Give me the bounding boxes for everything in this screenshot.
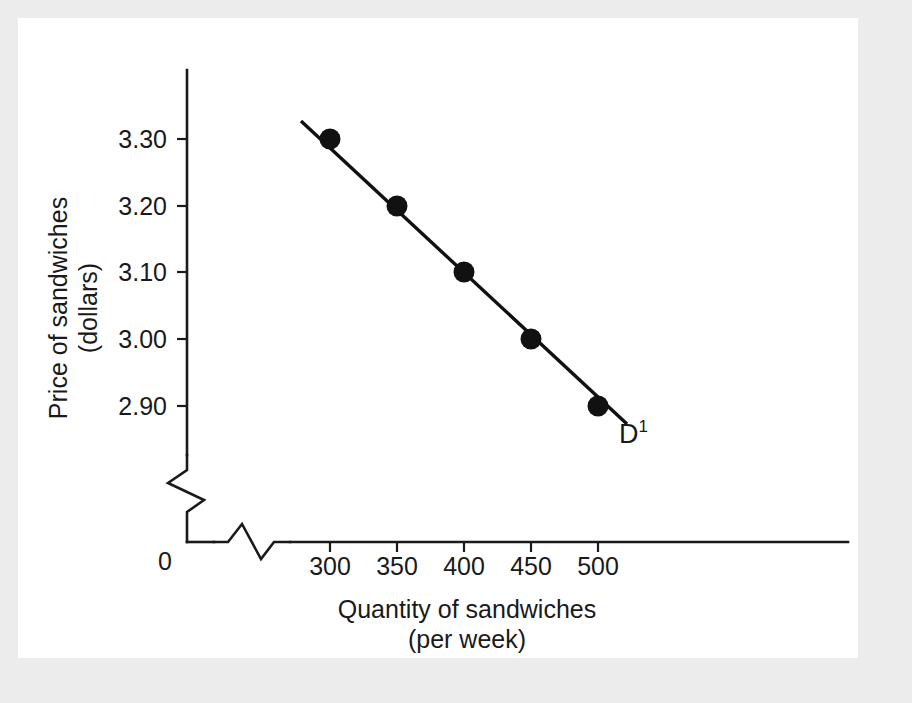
y-tick-label-2-90: 2.90 bbox=[118, 392, 167, 420]
y-axis-title-line1: Price of sandwiches bbox=[44, 197, 72, 419]
x-axis-title-line2: (per week) bbox=[408, 625, 526, 653]
y-tick-label-3-00: 3.00 bbox=[118, 325, 167, 353]
origin-label: 0 bbox=[158, 547, 172, 575]
curve-label-superscript: 1 bbox=[639, 417, 648, 436]
y-axis-title-line2: (dollars) bbox=[74, 263, 102, 353]
x-axis-break-icon bbox=[214, 524, 290, 559]
y-tick-label-3-10: 3.10 bbox=[118, 258, 167, 286]
data-point-450 bbox=[521, 329, 542, 350]
x-tick-label-350: 350 bbox=[376, 552, 418, 580]
y-tick-label-3-30: 3.30 bbox=[118, 125, 167, 153]
x-tick-label-500: 500 bbox=[577, 552, 619, 580]
y-tick-label-3-20: 3.20 bbox=[118, 192, 167, 220]
x-tick-label-300: 300 bbox=[309, 552, 351, 580]
x-axis-title-line1: Quantity of sandwiches bbox=[338, 595, 596, 623]
chart-canvas: 3.30 3.20 3.10 3.00 2.90 0 300 350 400 4… bbox=[18, 18, 858, 658]
data-point-500 bbox=[588, 396, 609, 417]
figure-root: 3.30 3.20 3.10 3.00 2.90 0 300 350 400 4… bbox=[0, 0, 912, 703]
data-point-400 bbox=[454, 262, 475, 283]
curve-label-d1: D1 bbox=[619, 417, 648, 449]
x-tick-label-400: 400 bbox=[443, 552, 485, 580]
data-point-350 bbox=[387, 196, 408, 217]
y-axis-break-icon bbox=[168, 455, 204, 542]
curve-label-letter: D bbox=[619, 419, 639, 449]
data-point-300 bbox=[320, 129, 341, 150]
demand-curve-chart: 3.30 3.20 3.10 3.00 2.90 0 300 350 400 4… bbox=[18, 18, 858, 658]
x-tick-label-450: 450 bbox=[510, 552, 552, 580]
